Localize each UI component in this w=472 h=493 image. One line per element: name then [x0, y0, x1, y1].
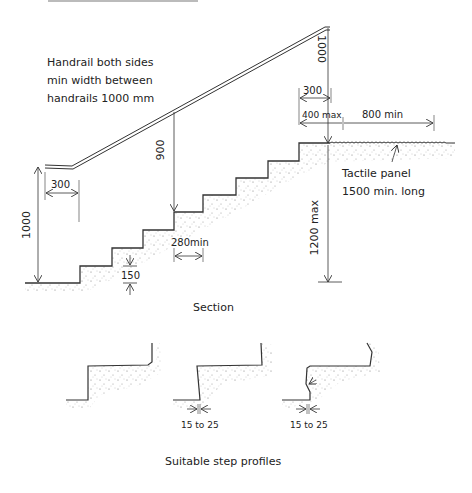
stair-fill [25, 143, 455, 292]
dim-total-rise: 1200 max [308, 200, 321, 256]
step-profile-splayed: 15 to 25 [173, 343, 272, 430]
dim-going: 280min [171, 237, 209, 248]
stair-design-diagram: 1000 300 400 max 800 min Tactile panel 1… [0, 0, 472, 493]
dim-handrail-nosing: 900 [154, 140, 167, 161]
dim-nosing-1: 15 to 25 [181, 420, 219, 430]
dim-handrail-bottom: 1000 [20, 211, 33, 239]
dim-handrail-ext-bottom: 300 [51, 179, 70, 190]
tactile-note-line2: 1500 min. long [342, 185, 425, 198]
dim-handrail-ext-top: 300 [303, 85, 322, 96]
step-profile-undercut: 15 to 25 [282, 343, 380, 430]
dim-800-min: 800 min [362, 109, 403, 120]
dim-400-max: 400 max [302, 110, 342, 120]
tactile-panel [330, 142, 455, 143]
handrail-note-line3: handrails 1000 mm [47, 92, 154, 105]
top-caption-cut [48, 0, 198, 2]
handrail-note-line1: Handrail both sides [47, 56, 154, 69]
dim-riser: 150 [121, 270, 140, 281]
profiles-title: Suitable step profiles [165, 455, 281, 468]
tactile-note-line1: Tactile panel [341, 167, 411, 180]
dim-handrail-top: 1000 [315, 35, 328, 63]
section-title: Section [193, 301, 234, 314]
step-profile-square [66, 343, 162, 410]
handrail-note-line2: min width between [47, 74, 153, 87]
dim-nosing-2: 15 to 25 [290, 420, 328, 430]
